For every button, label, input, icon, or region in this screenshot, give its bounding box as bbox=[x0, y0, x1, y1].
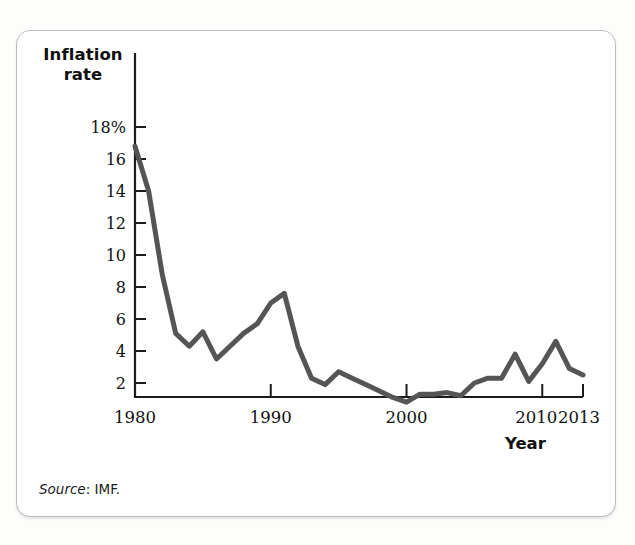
y-tick-label: 12 bbox=[106, 214, 126, 233]
figure-card: Inflation rate Year Source: IMF. 18%1614… bbox=[16, 30, 616, 517]
y-tick-label: 18% bbox=[90, 118, 126, 137]
x-tick-label-group: 19801990200020102013 bbox=[114, 408, 600, 427]
y-tick-label: 16 bbox=[106, 150, 126, 169]
x-tick-label: 1980 bbox=[114, 408, 156, 427]
x-tick-mark-group bbox=[135, 384, 583, 397]
x-tick-label: 2013 bbox=[558, 408, 600, 427]
inflation-rate-line-chart: 18%161412108642 19801990200020102013 bbox=[17, 31, 617, 518]
y-tick-label: 6 bbox=[116, 310, 126, 329]
x-tick-label: 2000 bbox=[386, 408, 428, 427]
chart-plot-area: 18%161412108642 19801990200020102013 bbox=[17, 31, 617, 518]
y-tick-label: 2 bbox=[116, 374, 126, 393]
inflation-rate-series-line bbox=[135, 146, 583, 402]
y-tick-label: 8 bbox=[116, 278, 126, 297]
y-tick-label: 10 bbox=[106, 246, 126, 265]
y-tick-label-group: 18%161412108642 bbox=[90, 118, 126, 393]
y-tick-label: 14 bbox=[106, 182, 126, 201]
x-tick-label: 2010 bbox=[515, 408, 557, 427]
y-tick-label: 4 bbox=[116, 342, 126, 361]
x-tick-label: 1990 bbox=[250, 408, 292, 427]
